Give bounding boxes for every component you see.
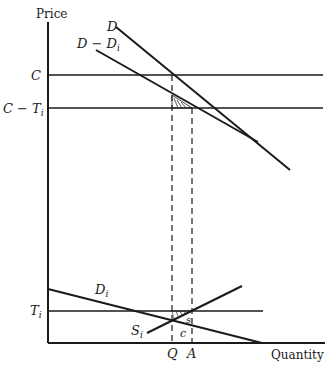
svg-text:Di: Di [94,282,108,299]
si-curve-label: Si [131,323,143,340]
c-minus-ti-label: C − Ti [3,101,44,118]
s-region-label: s [186,314,191,325]
svg-text:Si: Si [131,323,143,340]
a-label: A [186,346,196,361]
svg-text:C − Ti: C − Ti [3,101,44,118]
di-curve-label: Di [94,282,108,299]
svg-text:Ti: Ti [30,303,42,320]
d-minus-di-label: D − Di [76,36,120,53]
demand-curve-d [116,27,290,170]
price-axis-label: Price [36,7,67,21]
c-label: C [31,68,41,83]
market-diagram: Price Quantity C C − Ti D D − Di Ti Di S… [0,0,330,370]
residual-demand-curve [96,50,258,142]
ti-label: Ti [30,303,42,320]
c-region-label: c [180,327,186,340]
svg-text:D − Di: D − Di [76,36,120,53]
domestic-demand-curve-di [48,289,262,343]
upper-hatched-region [172,95,192,108]
quantity-axis-label: Quantity [271,348,324,362]
q-label: Q [167,346,178,361]
d-curve-label: D [106,19,118,34]
